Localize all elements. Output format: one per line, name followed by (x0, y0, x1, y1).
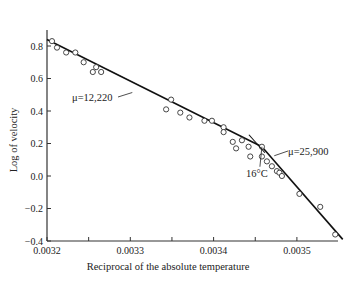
annotation-mu-25900: μ=25,900 (288, 146, 328, 157)
data-point (279, 173, 284, 178)
y-tick-label: −0.2 (25, 203, 43, 214)
data-point (318, 204, 323, 209)
data-point (64, 50, 69, 55)
data-point (81, 60, 86, 65)
data-point (169, 97, 174, 102)
data-point (248, 154, 253, 159)
data-point (259, 154, 264, 159)
data-point (233, 146, 238, 151)
data-point (221, 125, 226, 130)
data-point (239, 138, 244, 143)
annotation-leader (274, 151, 288, 156)
annotation-mu-12220: μ=12,220 (72, 92, 112, 103)
data-point (209, 118, 214, 123)
data-point (54, 45, 59, 50)
data-point (178, 110, 183, 115)
y-tick-label: 0.4 (31, 106, 44, 117)
data-point (333, 232, 338, 237)
y-tick-label: 0.0 (31, 171, 44, 182)
annotation-leader (118, 93, 132, 98)
data-point (269, 164, 274, 169)
axes: 0.80.60.40.20.0−0.2−0.40.00320.00330.003… (25, 30, 338, 256)
data-point (94, 65, 99, 70)
data-point (221, 130, 226, 135)
data-point (202, 118, 207, 123)
data-point (230, 139, 235, 144)
x-tick-label: 0.0032 (33, 245, 61, 256)
annotations: μ=12,220μ=25,90016°C (72, 92, 328, 179)
data-point (246, 144, 251, 149)
data-point (49, 39, 54, 44)
y-tick-label: 0.8 (31, 41, 44, 52)
annotation-16c: 16°C (246, 168, 268, 179)
y-axis-label: Log of velocity (8, 107, 19, 172)
x-tick-label: 0.0033 (117, 245, 145, 256)
chart: 0.80.60.40.20.0−0.2−0.40.00320.00330.003… (0, 0, 355, 282)
y-tick-label: 0.6 (31, 73, 44, 84)
data-point (187, 115, 192, 120)
x-tick-label: 0.0035 (283, 245, 311, 256)
data-points (49, 39, 337, 238)
data-point (297, 191, 302, 196)
data-point (90, 69, 95, 74)
data-point (164, 107, 169, 112)
data-point (73, 50, 78, 55)
x-axis-label: Reciprocal of the absolute temperature (87, 261, 250, 272)
data-point (264, 159, 269, 164)
breakpoint-mark (249, 135, 265, 153)
x-tick-label: 0.0034 (200, 245, 228, 256)
y-tick-label: 0.2 (31, 138, 44, 149)
data-point (99, 69, 104, 74)
